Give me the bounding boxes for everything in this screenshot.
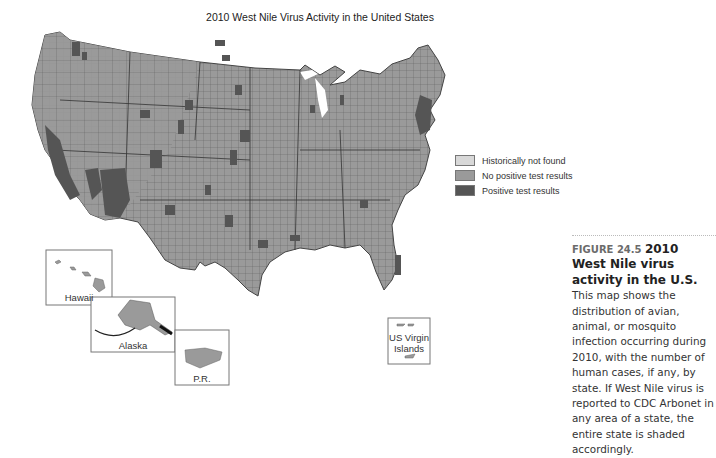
- swatch-not-found: [455, 155, 475, 166]
- swatch-positive: [455, 185, 475, 196]
- hawaii-label: Hawaii: [46, 292, 112, 303]
- usvi-label: US Virgin Islands: [388, 332, 430, 354]
- swatch-no-positive: [455, 170, 475, 181]
- pr-label: P.R.: [175, 373, 229, 384]
- alaska-label: Alaska: [91, 340, 175, 351]
- legend-item-no-positive: No positive test results: [455, 168, 573, 183]
- figure-number: FIGURE 24.5: [572, 244, 642, 255]
- legend-item-not-found: Historically not found: [455, 153, 573, 168]
- figure-caption: FIGURE 24.5 2010 West Nile virus activit…: [572, 235, 716, 458]
- legend: Historically not found No positive test …: [455, 153, 573, 198]
- legend-item-positive: Positive test results: [455, 183, 573, 198]
- figure-body: This map shows the distribution of avian…: [572, 289, 714, 455]
